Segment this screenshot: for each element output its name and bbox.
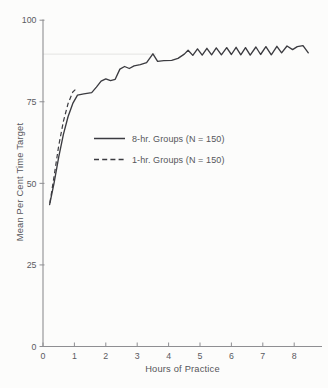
legend: 8-hr. Groups (N = 150) 1-hr. Groups (N =… bbox=[94, 128, 225, 170]
y-axis-title: Mean Per Cent Time Target bbox=[15, 82, 25, 282]
y-tick-label: 100 bbox=[22, 15, 37, 25]
x-axis-ticks: 012345678 bbox=[41, 343, 297, 362]
y-tick-label: 25 bbox=[27, 260, 37, 270]
chart-plot: 0255075100 012345678 bbox=[0, 0, 328, 388]
learning-curve-figure: 0255075100 012345678 8-hr. Groups (N = 1… bbox=[0, 0, 328, 388]
y-tick-label: 50 bbox=[27, 179, 37, 189]
x-tick-label: 6 bbox=[229, 351, 234, 361]
x-tick-label: 4 bbox=[166, 351, 171, 361]
x-tick-label: 2 bbox=[103, 351, 108, 361]
y-tick-label: 75 bbox=[27, 97, 37, 107]
y-axis-ticks: 0255075100 bbox=[22, 15, 45, 351]
legend-label-8hr: 8-hr. Groups (N = 150) bbox=[132, 134, 225, 144]
x-axis-title: Hours of Practice bbox=[43, 364, 322, 374]
x-tick-label: 5 bbox=[198, 351, 203, 361]
x-tick-label: 7 bbox=[260, 351, 265, 361]
legend-dashed-swatch-icon bbox=[94, 157, 125, 162]
legend-item-1hr: 1-hr. Groups (N = 150) bbox=[94, 149, 225, 170]
x-tick-label: 0 bbox=[41, 351, 46, 361]
legend-label-1hr: 1-hr. Groups (N = 150) bbox=[132, 155, 225, 165]
series-8hr-line bbox=[50, 46, 309, 205]
legend-item-8hr: 8-hr. Groups (N = 150) bbox=[94, 128, 225, 149]
x-tick-label: 8 bbox=[292, 351, 297, 361]
y-tick-label: 0 bbox=[32, 342, 37, 352]
legend-solid-swatch-icon bbox=[94, 136, 125, 141]
x-tick-label: 3 bbox=[135, 351, 140, 361]
x-tick-label: 1 bbox=[72, 351, 77, 361]
